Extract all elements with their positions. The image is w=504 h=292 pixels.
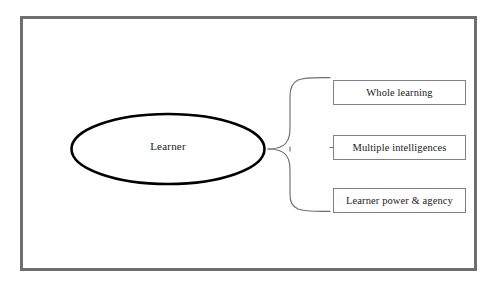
brace-upper-arm [268,78,330,149]
branch-box-label: Multiple intelligences [352,142,446,153]
branch-box-whole-learning: Whole learning [333,80,466,105]
branch-box-learner-power-agency: Learner power & agency [333,188,466,213]
diagram-canvas: Learner Whole learning Multiple intellig… [0,0,504,292]
brace-lower-arm [268,149,330,211]
branch-box-multiple-intelligences: Multiple intelligences [333,135,466,160]
branch-box-label: Whole learning [366,87,432,98]
branch-box-label: Learner power & agency [346,195,453,206]
learner-ellipse-label: Learner [71,140,265,152]
